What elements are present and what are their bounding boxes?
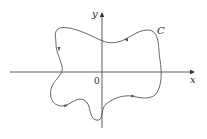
diagram-canvas: y x 0 C <box>0 0 207 139</box>
curve-direction-arrow-bottom-right <box>131 95 135 98</box>
curve-label-c: C <box>157 25 165 36</box>
curve-direction-arrow-bottom-left <box>64 105 68 108</box>
x-axis-label: x <box>190 74 196 85</box>
curve-c <box>50 28 161 121</box>
origin-label: 0 <box>94 76 100 86</box>
curve-direction-arrow-left-side <box>58 47 61 52</box>
y-axis-label: y <box>91 8 98 19</box>
